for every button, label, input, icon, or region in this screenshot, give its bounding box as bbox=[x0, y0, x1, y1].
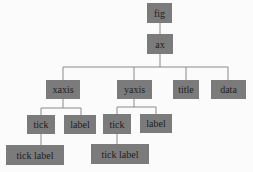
node-title: title bbox=[173, 80, 199, 99]
node-yaxis-tick: tick bbox=[103, 114, 131, 134]
node-yaxis-tick-label: tick label bbox=[91, 144, 149, 164]
node-xaxis: xaxis bbox=[46, 80, 80, 99]
node-xaxis-tick-label: tick label bbox=[6, 145, 64, 165]
node-data: data bbox=[211, 80, 246, 99]
node-xaxis-label: label bbox=[64, 115, 96, 134]
node-ax: ax bbox=[147, 34, 173, 54]
node-yaxis-label: label bbox=[140, 114, 172, 133]
node-yaxis: yaxis bbox=[117, 80, 152, 99]
node-fig: fig bbox=[147, 3, 172, 23]
node-xaxis-tick: tick bbox=[27, 115, 55, 134]
